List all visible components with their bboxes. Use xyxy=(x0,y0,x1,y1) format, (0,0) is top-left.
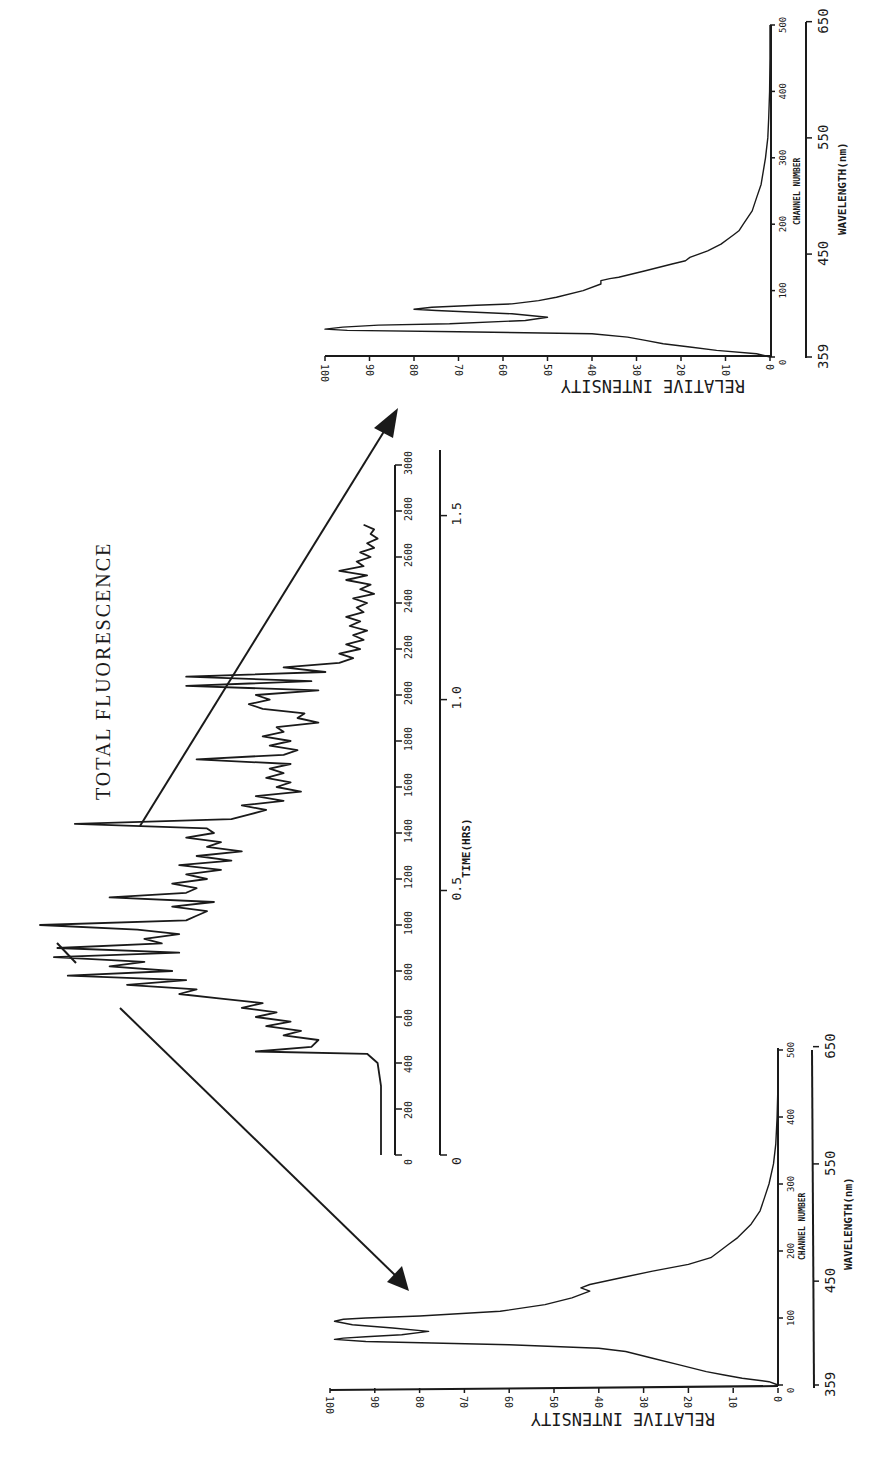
time-tick-label: 0 xyxy=(449,1157,464,1165)
scan-tick-label: 0 xyxy=(403,1159,414,1165)
intensity-tick-label: 90 xyxy=(364,364,375,376)
scan-tick-label: 2000 xyxy=(403,681,414,705)
channel-tick-label: 300 xyxy=(786,1176,796,1192)
scan-tick-label: 600 xyxy=(403,1009,414,1027)
scan-tick-label: 1200 xyxy=(403,865,414,889)
wavelength-tick-label: 359 xyxy=(822,1372,838,1397)
spectrum-top: 1009080706050403020100 RELATIVE INTENSIT… xyxy=(319,8,849,396)
channel-tick-label: 100 xyxy=(778,282,788,298)
wavelength-tick-label: 650 xyxy=(815,8,831,33)
wavelength-tick-label: 550 xyxy=(815,125,831,150)
spectrum-top-wavelength-label: WAVELENGTH(nm) xyxy=(836,142,849,235)
peak-marker xyxy=(57,943,76,963)
intensity-tick-label: 60 xyxy=(497,364,508,376)
intensity-tick-label: 10 xyxy=(727,1396,738,1408)
scan-tick-label: 2400 xyxy=(403,589,414,613)
scan-tick-label: 2600 xyxy=(403,543,414,567)
fluorescence-figure: TOTAL FLUORESCENCE 020040060080010001200… xyxy=(0,0,875,1462)
channel-tick-label: 100 xyxy=(786,1310,796,1326)
intensity-tick-label: 70 xyxy=(458,1396,469,1408)
time-tick-label: 1.0 xyxy=(449,686,464,709)
channel-tick-label: 200 xyxy=(786,1243,796,1259)
spectrum-top-trace xyxy=(325,25,770,357)
spectrum-top-wavelength-ticks: 359450550650 xyxy=(806,8,831,369)
scan-tick-label: 200 xyxy=(403,1101,414,1119)
spectrum-top-channel-label: CHANNEL NUMBER xyxy=(793,157,802,225)
intensity-tick-label: 50 xyxy=(548,1396,559,1408)
wavelength-tick-label: 650 xyxy=(822,1033,838,1058)
intensity-tick-label: 80 xyxy=(414,1396,425,1408)
channel-tick-label: 0 xyxy=(778,360,788,365)
chart-title: TOTAL FLUORESCENCE xyxy=(92,542,114,800)
scan-tick-label: 2200 xyxy=(403,635,414,659)
intensity-tick-label: 70 xyxy=(453,364,464,376)
intensity-tick-label: 10 xyxy=(720,364,731,376)
intensity-tick-label: 20 xyxy=(682,1396,693,1408)
spectrum-bottom-wavelength-ticks: 359450550650 xyxy=(813,1033,838,1397)
intensity-tick-label: 0 xyxy=(764,364,775,370)
time-tick-label: 0.5 xyxy=(449,877,464,900)
spectrum-bottom: 1009080706050403020100 RELATIVE INTENSIT… xyxy=(324,1033,855,1429)
scan-tick-label: 1800 xyxy=(403,727,414,751)
intensity-tick-label: 30 xyxy=(631,364,642,376)
spectrum-bottom-channel-label: CHANNEL NUMBER xyxy=(798,1192,807,1260)
channel-tick-label: 400 xyxy=(778,83,788,99)
wavelength-tick-label: 450 xyxy=(815,241,831,266)
intensity-tick-label: 100 xyxy=(324,1396,335,1414)
spectrum-bottom-trace xyxy=(335,1050,779,1385)
scan-tick-label: 3000 xyxy=(403,451,414,475)
intensity-tick-label: 50 xyxy=(542,364,553,376)
spectrum-top-channel-ticks: 0100200300400500 xyxy=(770,17,788,365)
time-tick-label: 1.5 xyxy=(449,502,464,525)
scan-tick-label: 2800 xyxy=(403,497,414,521)
spectrum-bottom-ylabel: RELATIVE INTENSITY xyxy=(531,1409,715,1429)
scan-tick-label: 1600 xyxy=(403,773,414,797)
arrowhead-icon xyxy=(374,408,398,438)
intensity-tick-label: 60 xyxy=(503,1396,514,1408)
intensity-tick-label: 90 xyxy=(369,1396,380,1408)
intensity-tick-label: 30 xyxy=(638,1396,649,1408)
spectrum-bottom-wavelength-axis xyxy=(812,1050,814,1388)
wavelength-tick-label: 550 xyxy=(822,1151,838,1176)
scan-tick-label: 1400 xyxy=(403,819,414,843)
spectrum-top-ylabel: RELATIVE INTENSITY xyxy=(561,376,745,396)
scan-tick-label: 1000 xyxy=(403,911,414,935)
channel-tick-label: 400 xyxy=(786,1109,796,1125)
time-axis-label: TIME(HRS) xyxy=(460,818,473,878)
intensity-tick-label: 40 xyxy=(586,364,597,376)
spectrum-bottom-channel-ticks: 0100200300400500 xyxy=(778,1042,796,1393)
intensity-tick-label: 80 xyxy=(408,364,419,376)
wavelength-tick-label: 450 xyxy=(822,1268,838,1293)
intensity-tick-label: 100 xyxy=(319,364,330,382)
channel-tick-label: 500 xyxy=(786,1042,796,1058)
intensity-tick-label: 40 xyxy=(593,1396,604,1408)
scan-tick-label: 400 xyxy=(403,1055,414,1073)
intensity-tick-label: 0 xyxy=(772,1396,783,1402)
channel-tick-label: 500 xyxy=(778,17,788,33)
spectrum-bottom-wavelength-label: WAVELENGTH(nm) xyxy=(842,1177,855,1270)
scan-axis-ticks: 0200400600800100012001400160018002000220… xyxy=(395,451,414,1165)
channel-tick-label: 200 xyxy=(778,216,788,232)
intensity-tick-label: 20 xyxy=(675,364,686,376)
channel-tick-label: 0 xyxy=(786,1388,796,1393)
scan-tick-label: 800 xyxy=(403,963,414,981)
wavelength-tick-label: 359 xyxy=(815,344,831,369)
channel-tick-label: 300 xyxy=(778,150,788,166)
